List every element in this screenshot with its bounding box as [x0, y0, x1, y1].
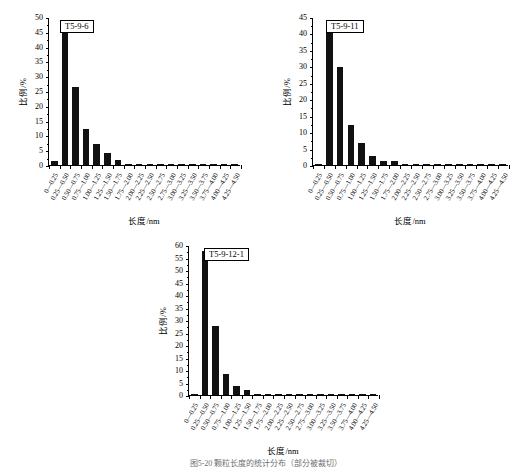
- bar-cell: [324, 18, 335, 165]
- y-tick-label: 35: [35, 58, 43, 66]
- bar-cell: [497, 18, 508, 165]
- bar-cell: [198, 18, 209, 165]
- bar: [499, 164, 506, 165]
- bar-cell: [242, 246, 253, 395]
- bar-cell: [475, 18, 486, 165]
- bar: [265, 394, 272, 395]
- bar: [380, 161, 387, 165]
- x-tick-mark: [346, 165, 347, 169]
- x-tick-mark: [189, 395, 190, 399]
- y-tick-label: 40: [299, 30, 307, 38]
- bar-cell: [187, 18, 198, 165]
- x-tick-mark: [231, 395, 232, 399]
- bar-cell: [176, 18, 187, 165]
- x-tick-mark: [284, 395, 285, 399]
- bar-cell: [315, 246, 326, 395]
- x-tick-mark: [337, 395, 338, 399]
- bar: [202, 251, 209, 396]
- bar: [358, 143, 365, 165]
- bar-cell: [443, 18, 454, 165]
- bar: [488, 164, 495, 165]
- x-tick-mark: [210, 395, 211, 399]
- x-tick-mark: [465, 165, 466, 169]
- y-tick-label: 30: [299, 63, 307, 71]
- x-tick-mark: [145, 165, 146, 169]
- bar-cell: [60, 18, 71, 165]
- bar: [307, 394, 314, 395]
- x-tick-mark: [60, 165, 61, 169]
- x-tick-mark: [422, 165, 423, 169]
- bar-cell: [400, 18, 411, 165]
- bar: [423, 164, 430, 165]
- bar-cell: [221, 246, 232, 395]
- bar-cell: [123, 18, 134, 165]
- bar: [477, 164, 484, 165]
- bar-cell: [229, 18, 240, 165]
- sample-label-badge: T5-9-6: [60, 20, 94, 33]
- bar: [136, 164, 143, 165]
- x-tick-mark: [241, 165, 242, 169]
- bar: [200, 164, 207, 165]
- figure-caption: 图5-20 颗粒长度的统计分布（部分被裁切）: [0, 457, 532, 468]
- sample-label-badge: T5-9-11: [326, 20, 364, 33]
- bar-cell: [81, 18, 92, 165]
- bar-cell: [421, 18, 432, 165]
- x-tick-mark: [326, 395, 327, 399]
- x-tick-mark: [134, 165, 135, 169]
- bar: [221, 164, 228, 165]
- y-tick-label: 0: [303, 162, 307, 170]
- bar: [178, 164, 185, 165]
- bar: [83, 129, 90, 165]
- bar: [337, 67, 344, 165]
- bar-cell: [432, 18, 443, 165]
- x-tick-mark: [273, 395, 274, 399]
- bar-cell: [410, 18, 421, 165]
- bar: [231, 164, 238, 165]
- bar-cell: [336, 246, 347, 395]
- bar-cell: [356, 18, 367, 165]
- y-tick-label: 0: [39, 162, 43, 170]
- bar: [51, 161, 58, 165]
- y-tick-label: 55: [175, 255, 183, 263]
- y-tick-label: 0: [179, 392, 183, 400]
- x-tick-mark: [335, 165, 336, 169]
- bar: [254, 394, 261, 395]
- y-tick-label: 50: [175, 267, 183, 275]
- y-axis-title: 比例/%: [16, 72, 28, 112]
- bar-series: [189, 246, 378, 395]
- bar-series: [49, 18, 240, 165]
- bar: [189, 164, 196, 165]
- x-tick-mark: [252, 395, 253, 399]
- x-tick-mark: [498, 165, 499, 169]
- bar-cell: [210, 246, 221, 395]
- bar: [296, 394, 303, 395]
- x-tick-mark: [347, 395, 348, 399]
- bar: [315, 164, 322, 165]
- bar-cell: [486, 18, 497, 165]
- bar: [338, 394, 345, 395]
- bar-cell: [357, 246, 368, 395]
- x-tick-mark: [188, 165, 189, 169]
- x-tick-mark: [49, 165, 50, 169]
- plot-axes: [48, 18, 240, 166]
- plot-axes: [188, 246, 378, 396]
- bar-cell: [134, 18, 145, 165]
- y-tick-label: 20: [35, 103, 43, 111]
- bar: [104, 153, 111, 165]
- bar: [434, 164, 441, 165]
- bar-cell: [389, 18, 400, 165]
- bar-cell: [313, 18, 324, 165]
- bar-cell: [326, 246, 337, 395]
- x-tick-mark: [113, 165, 114, 169]
- bar: [349, 394, 356, 395]
- bar: [233, 386, 240, 395]
- x-tick-mark: [368, 395, 369, 399]
- bar-cell: [144, 18, 155, 165]
- y-tick-label: 40: [35, 44, 43, 52]
- x-tick-mark: [379, 395, 380, 399]
- bar: [157, 164, 164, 165]
- bar: [286, 394, 293, 395]
- x-axis-title: 长度/nm: [312, 214, 508, 226]
- bar: [370, 394, 377, 395]
- bar: [72, 87, 79, 165]
